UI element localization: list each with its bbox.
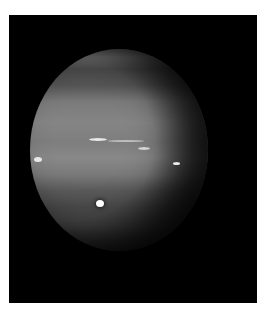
cloud-streak: [108, 140, 144, 142]
bright-spot: [96, 200, 104, 207]
cloud-streak: [138, 147, 150, 150]
cloud-streak: [34, 157, 42, 162]
image-frame: [9, 15, 257, 303]
cloud-streak: [173, 162, 180, 165]
cloud-streak: [89, 138, 107, 141]
planet: [30, 49, 208, 251]
